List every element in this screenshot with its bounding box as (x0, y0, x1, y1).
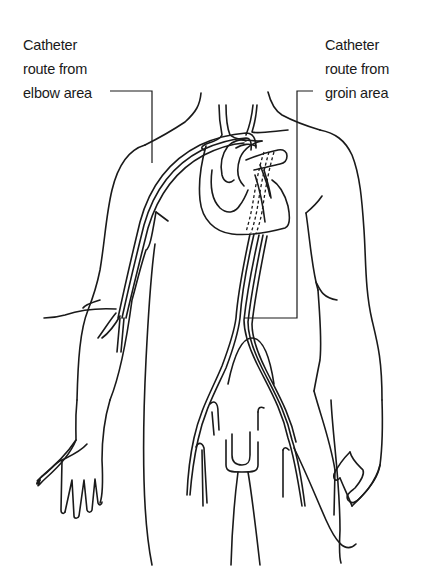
catheter-route-groin (187, 234, 356, 548)
label-elbow-line-1: Catheter (23, 33, 92, 57)
label-groin-line-2: route from (325, 57, 389, 81)
label-groin-line-3: groin area (325, 81, 389, 105)
label-groin-line-1: Catheter (325, 33, 389, 57)
heart (199, 105, 289, 235)
diagram-canvas: Catheter route from elbow area Catheter … (0, 0, 428, 588)
body-outline (37, 92, 383, 565)
label-elbow-line-2: route from (23, 57, 92, 81)
label-groin-route: Catheter route from groin area (325, 33, 389, 105)
label-elbow-line-3: elbow area (23, 81, 92, 105)
label-elbow-route: Catheter route from elbow area (23, 33, 92, 105)
